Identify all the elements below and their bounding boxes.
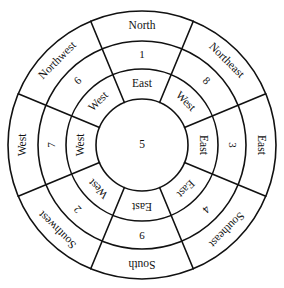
label-northwest-outer: Northwest	[36, 38, 79, 81]
label-west-middle: 7	[45, 142, 57, 148]
compass-ring-diagram: North1EastNortheast8WestEast3EastSouthea…	[0, 0, 284, 288]
label-north-middle: 1	[139, 48, 145, 60]
sector-divider-4	[91, 187, 125, 268]
sector-divider-2	[184, 163, 265, 197]
label-south-inner: East	[131, 201, 152, 213]
label-southeast-outer: Southeast	[206, 210, 247, 251]
sector-divider-5	[18, 163, 99, 197]
label-northeast-outer: Northeast	[207, 40, 248, 81]
sector-divider-1	[184, 94, 265, 128]
label-north-inner: East	[132, 77, 153, 89]
label-east-middle: 3	[227, 142, 239, 148]
label-southeast-inner: East	[174, 178, 197, 201]
label-southeast-middle: 4	[200, 203, 213, 216]
label-northeast-middle: 8	[200, 74, 213, 87]
label-southwest-outer: Southwest	[35, 208, 78, 251]
sector-divider-3	[160, 187, 194, 268]
label-north-outer: North	[129, 19, 156, 31]
sector-divider-6	[18, 94, 99, 128]
label-east-inner: East	[198, 135, 210, 156]
label-northwest-inner: West	[86, 88, 111, 113]
compass-diagram-canvas: North1EastNortheast8WestEast3EastSouthea…	[0, 0, 284, 288]
sector-divider-0	[160, 21, 194, 102]
label-south-outer: South	[128, 259, 155, 271]
sector-divider-7	[91, 21, 125, 102]
label-southwest-inner: West	[85, 176, 110, 201]
label-southwest-middle: 2	[71, 203, 83, 215]
label-west-outer: West	[16, 133, 28, 157]
label-east-outer: East	[256, 135, 268, 156]
label-northeast-inner: West	[174, 89, 199, 114]
label-west-inner: West	[74, 133, 86, 157]
label-center: 5	[139, 138, 145, 150]
center-label-group: 5	[139, 138, 145, 150]
label-south-middle: 9	[139, 230, 145, 242]
label-northwest-middle: 6	[71, 74, 84, 87]
